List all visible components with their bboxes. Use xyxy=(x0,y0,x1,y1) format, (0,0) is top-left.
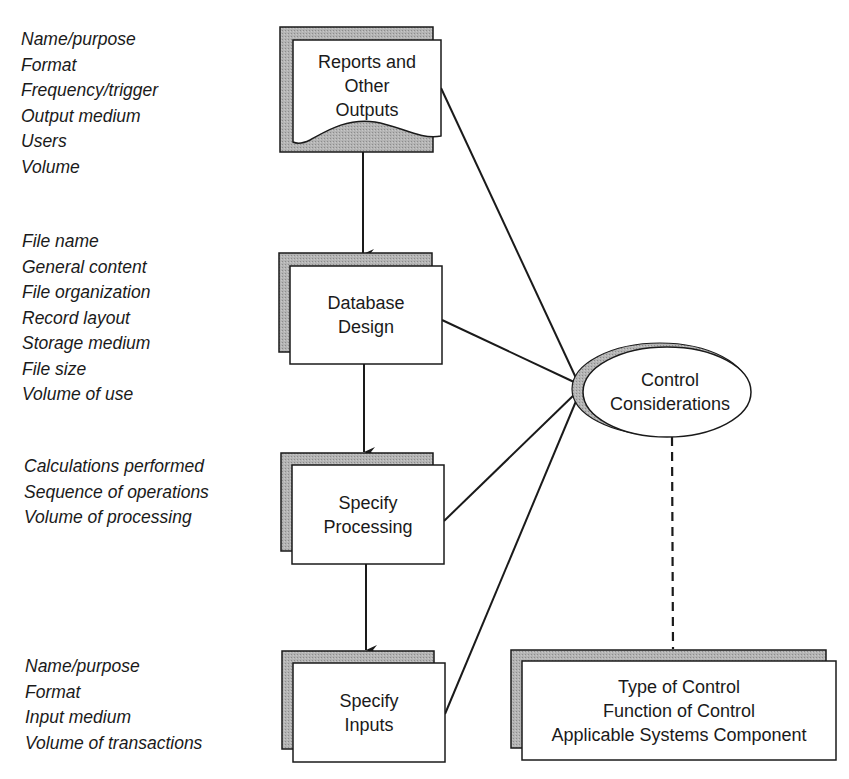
attributes-inputs: Name/purpose Format Input medium Volume … xyxy=(25,654,202,756)
attribute-item: Sequence of operations xyxy=(24,480,209,506)
attribute-item: File organization xyxy=(22,280,150,306)
attribute-item: File name xyxy=(22,229,150,255)
attribute-item: Format xyxy=(25,680,202,706)
attribute-item: Volume of transactions xyxy=(25,731,202,757)
attribute-item: Name/purpose xyxy=(25,654,202,680)
label-line: Control xyxy=(641,368,699,392)
attributes-reports: Name/purpose Format Frequency/trigger Ou… xyxy=(21,27,158,180)
label-line: Outputs xyxy=(335,98,398,122)
control-detail-label: Type of Control Function of Control Appl… xyxy=(522,666,836,756)
label-line: Applicable Systems Component xyxy=(551,723,806,747)
database-label: Database Design xyxy=(290,266,442,364)
attribute-item: Frequency/trigger xyxy=(21,78,158,104)
label-line: Specify xyxy=(339,689,398,713)
inputs-label: Specify Inputs xyxy=(293,663,445,762)
attribute-item: Format xyxy=(21,53,158,79)
attributes-database: File name General content File organizat… xyxy=(22,229,150,408)
attribute-item: Record layout xyxy=(22,306,150,332)
attribute-item: Volume of processing xyxy=(24,505,209,531)
edge-processing-control xyxy=(444,392,577,521)
label-line: Processing xyxy=(323,515,412,539)
connector-lines xyxy=(441,88,579,714)
label-line: Design xyxy=(338,315,394,339)
attribute-item: Output medium xyxy=(21,104,158,130)
attribute-item: Storage medium xyxy=(22,331,150,357)
attribute-item: Calculations performed xyxy=(24,454,209,480)
edge-reports-control xyxy=(441,88,576,378)
flow-arrows xyxy=(363,143,366,650)
label-line: Reports and xyxy=(318,50,416,74)
label-line: Inputs xyxy=(344,713,393,737)
label-line: Other xyxy=(344,74,389,98)
edge-control-detail-dashed xyxy=(672,437,673,649)
label-line: Type of Control xyxy=(618,675,740,699)
attribute-item: Name/purpose xyxy=(21,27,158,53)
control-label: Control Considerations xyxy=(590,362,750,422)
attribute-item: Input medium xyxy=(25,705,202,731)
reports-label: Reports and Other Outputs xyxy=(293,48,441,124)
attribute-item: Volume xyxy=(21,155,158,181)
processing-label: Specify Processing xyxy=(292,465,444,564)
label-line: Specify xyxy=(338,491,397,515)
label-line: Considerations xyxy=(610,392,730,416)
attribute-item: General content xyxy=(22,255,150,281)
attribute-item: Volume of use xyxy=(22,382,150,408)
attribute-item: File size xyxy=(22,357,150,383)
attributes-processing: Calculations performed Sequence of opera… xyxy=(24,454,209,531)
label-line: Function of Control xyxy=(603,699,755,723)
attribute-item: Users xyxy=(21,129,158,155)
label-line: Database xyxy=(327,291,404,315)
